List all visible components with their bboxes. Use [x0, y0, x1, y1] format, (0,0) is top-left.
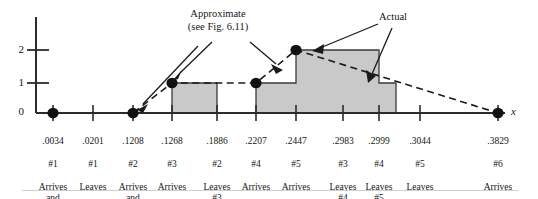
entry-customer: #3 [338, 159, 348, 169]
entry-time: .2999 [368, 136, 389, 146]
arrow-line [320, 24, 378, 48]
y-tick-label-1: 1 [8, 76, 24, 88]
entry-customer: #2 [212, 159, 222, 169]
entry-customer: #6 [493, 159, 503, 169]
entry-customer: #1 [88, 159, 98, 169]
arrow-line [180, 42, 212, 73]
entry-customer: #5 [291, 159, 301, 169]
entry-time: .1208 [122, 136, 143, 146]
entry-time: .3829 [487, 136, 508, 146]
data-point-marker [290, 45, 301, 55]
arrow-line [250, 42, 276, 64]
entry-time: .0201 [82, 136, 103, 146]
entry-customer: #3 [167, 159, 177, 169]
actual-bar-segment [172, 83, 217, 113]
data-point-marker [47, 108, 58, 118]
entry-time: .2447 [285, 136, 306, 146]
entry-time: .1886 [206, 136, 227, 146]
entry-time: .2207 [245, 136, 266, 146]
entry-customer: #5 [415, 159, 425, 169]
x-axis-label: x [511, 105, 516, 117]
figure-bottom-rule [22, 190, 518, 191]
entry-customer: #4 [251, 159, 261, 169]
entry-customer: #1 [48, 159, 58, 169]
data-point-marker [492, 108, 503, 118]
entry-time: .3044 [409, 136, 430, 146]
data-point-marker [250, 78, 261, 88]
actual-step-area [172, 50, 396, 113]
annotation-approximate: Approximate (see Fig. 6.11) [159, 8, 277, 33]
annotation-actual: Actual [363, 11, 423, 24]
data-point-marker [127, 108, 138, 118]
x-axis-entry: .3829 #6 Arrives [468, 124, 528, 193]
y-tick-label-2: 2 [8, 43, 24, 55]
entry-customer: #4 [374, 159, 384, 169]
entry-time: .0034 [42, 136, 63, 146]
x-axis-entry: .3044 #5 Leaves [390, 124, 450, 193]
y-tick-label-0: 0 [8, 105, 24, 117]
entry-customer: #2 [128, 159, 138, 169]
actual-bar-segment [256, 50, 396, 113]
entry-time: .1268 [161, 136, 182, 146]
